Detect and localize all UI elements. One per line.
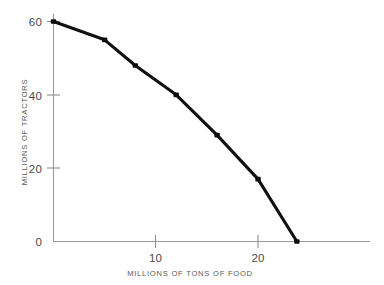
data-point xyxy=(51,19,56,24)
data-point xyxy=(294,239,299,244)
x-tick-label-20: 20 xyxy=(251,252,264,264)
y-tick-label-0: 0 xyxy=(35,236,42,248)
data-point-markers xyxy=(51,19,300,244)
x-axis-title: MILLIONS OF TONS OF FOOD xyxy=(127,269,253,278)
data-point xyxy=(102,38,107,43)
ppf-curve xyxy=(54,22,297,242)
data-point xyxy=(133,63,138,68)
chart-container: 60 40 20 0 10 20 MILLIONS OF TONS OF FOO… xyxy=(0,0,384,285)
y-tick-label-40: 40 xyxy=(29,90,42,102)
x-tick-label-10: 10 xyxy=(149,252,162,264)
ppf-line-chart: 60 40 20 0 10 20 MILLIONS OF TONS OF FOO… xyxy=(0,0,384,285)
data-point xyxy=(174,93,179,98)
data-point xyxy=(255,177,260,182)
y-axis-title: MILLIONS OF TRACTORS xyxy=(20,79,29,186)
series-group xyxy=(51,19,300,244)
data-point xyxy=(214,133,219,138)
y-tick-label-20: 20 xyxy=(29,163,42,175)
y-tick-label-60: 60 xyxy=(29,16,42,28)
